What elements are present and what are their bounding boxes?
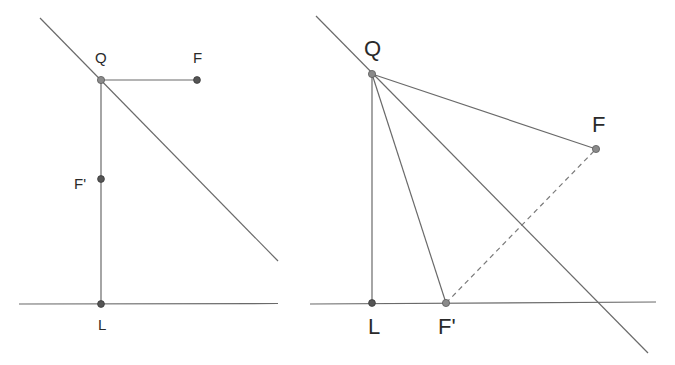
- left-label-Q: Q: [95, 49, 107, 66]
- right-label-Q: Q: [364, 36, 381, 61]
- left-point-F-prime: [98, 176, 105, 183]
- right-point-F-prime: [442, 299, 449, 306]
- diagram-canvas: Q F F' L Q F L F': [0, 0, 675, 365]
- right-segment-QF: [372, 74, 596, 149]
- right-point-L: [369, 300, 376, 307]
- right-point-F: [592, 145, 599, 152]
- left-label-F-prime: F': [74, 175, 86, 192]
- right-segment-QF-prime: [372, 74, 446, 303]
- left-diagram: Q F F' L: [19, 18, 278, 333]
- right-segment-F-prime-F: [446, 149, 596, 303]
- right-label-F: F: [592, 112, 605, 137]
- right-label-L: L: [368, 314, 380, 339]
- left-point-F: [194, 77, 201, 84]
- right-diagram: Q F L F': [310, 16, 656, 353]
- right-point-Q: [368, 70, 375, 77]
- left-point-Q: [97, 76, 104, 83]
- left-tangent-line: [40, 18, 278, 261]
- left-directrix: [19, 304, 278, 305]
- right-label-F-prime: F': [438, 314, 456, 339]
- left-label-L: L: [98, 316, 106, 333]
- right-directrix: [310, 302, 656, 304]
- left-label-F: F: [193, 49, 202, 66]
- left-point-L: [98, 301, 105, 308]
